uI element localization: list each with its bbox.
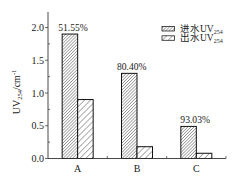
legend-label-sub: 254 bbox=[214, 38, 223, 44]
y-axis-title-sup: -1 bbox=[10, 70, 17, 75]
legend-label-sub: 254 bbox=[214, 29, 223, 35]
bar-C-outflow bbox=[196, 153, 212, 158]
legend-swatch-dense-hatch-icon bbox=[162, 27, 175, 32]
bar-C-inflow bbox=[181, 126, 197, 158]
bar-A-outflow bbox=[78, 100, 94, 159]
y-tick-label: 2.0 bbox=[32, 22, 45, 33]
legend: 进水UV254 出水UV254 bbox=[162, 23, 223, 44]
y-tick-label: 0.5 bbox=[32, 120, 45, 131]
x-tick-label: C bbox=[193, 163, 200, 174]
removal-rate-label: 51.55% bbox=[58, 22, 88, 33]
y-tick-label: 1.0 bbox=[32, 88, 45, 99]
legend-item-outflow: 出水UV254 bbox=[162, 32, 223, 44]
y-tick-label: 0.0 bbox=[32, 153, 45, 164]
bar-A-inflow bbox=[62, 34, 78, 158]
y-axis-title-unit: /cm bbox=[11, 75, 22, 90]
bar-chart: 0.0 0.5 1.0 1.5 2.0 A B C 51.55% 80.40% … bbox=[0, 0, 239, 183]
removal-rate-label: 80.40% bbox=[117, 61, 147, 72]
y-axis-title-main: UV bbox=[11, 99, 22, 114]
legend-label-main: 出水UV bbox=[180, 32, 214, 43]
x-tick-label: A bbox=[74, 163, 82, 174]
removal-rate-label: 93.03% bbox=[180, 114, 210, 125]
y-tick-label: 1.5 bbox=[32, 55, 45, 66]
legend-swatch-sparse-hatch-icon bbox=[162, 36, 175, 41]
bar-B-inflow bbox=[122, 73, 138, 158]
bar-B-outflow bbox=[137, 147, 153, 159]
x-tick-label: B bbox=[134, 163, 141, 174]
bars-group bbox=[62, 34, 212, 158]
y-axis-title: UV254/cm-1 bbox=[10, 70, 23, 115]
